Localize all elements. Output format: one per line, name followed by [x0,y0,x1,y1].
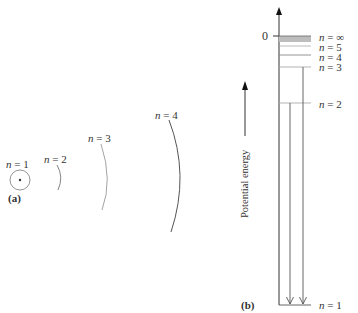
level-label-n3: n = 3 [319,62,342,73]
arrow-up-icon [242,81,248,90]
level-label-n1: n = 1 [319,300,342,311]
axis-arrow-icon [276,7,282,15]
axis-label-potential-energy: Potential energy [239,150,250,218]
orbit-n2 [57,165,61,190]
orbit-n3 [101,144,107,210]
level-label-n2: n = 2 [319,99,342,110]
orbit-label-n4: n = 4 [155,110,178,121]
panel-b-label: (b) [241,300,254,311]
orbit-label-n1: n = 1 [6,159,29,170]
panel-a-label: (a) [8,193,21,204]
orbit-label-n2: n = 2 [44,154,67,165]
orbit-n4 [169,120,180,232]
orbit-label-n3: n = 3 [88,133,111,144]
energy-level-diagram [242,7,311,305]
continuum-band [279,36,311,42]
nucleus [19,179,21,181]
zero-label: 0 [262,31,268,42]
